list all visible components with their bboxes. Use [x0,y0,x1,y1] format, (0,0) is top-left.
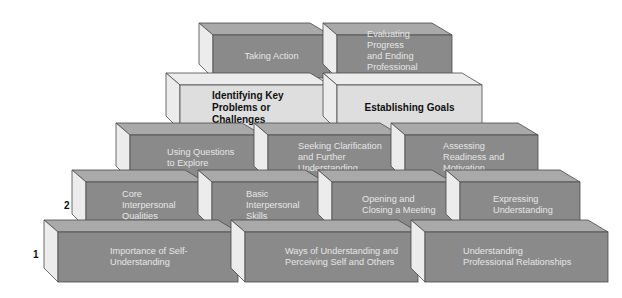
brick-level-1-1: Importance of Self- Understanding [44,220,240,284]
brick-level-1-3: Understanding Professional Relationships [411,220,610,284]
pyramid-diagram: 5Taking ActionEvaluating Progress and En… [0,0,622,298]
brick-label: Taking Action [213,35,330,78]
brick-level-1-2: Ways of Understanding and Perceiving Sel… [231,220,420,284]
level-number-1: 1 [33,249,39,260]
brick-level-5-2: Evaluating Progress and Ending Professio… [323,23,454,80]
brick-label: Importance of Self- Understanding [110,232,234,282]
brick-label: Understanding Professional Relationships [463,232,604,282]
brick-label: Ways of Understanding and Perceiving Sel… [285,232,414,282]
level-number-2: 2 [64,200,70,211]
brick-label: Evaluating Progress and Ending Professio… [367,35,448,78]
brick-level-5-1: Taking Action [199,23,332,80]
